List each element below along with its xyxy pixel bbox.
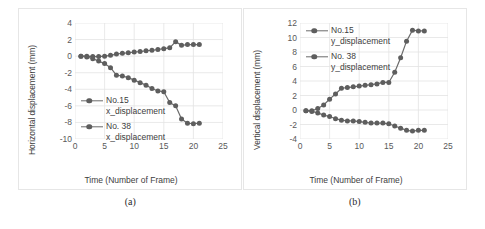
y-tick-label: -4	[64, 84, 72, 94]
data-point-marker	[167, 100, 172, 105]
y-tick-label: -8	[64, 117, 72, 127]
legend-a: No.15 x_displacement No. 38 x_displaceme…	[81, 95, 165, 147]
x-tick-label: 10	[354, 141, 363, 151]
y-tick-label: 8	[292, 47, 297, 57]
data-point-marker	[197, 121, 202, 126]
legend-label: No.15	[106, 95, 129, 106]
data-point-marker	[333, 92, 338, 97]
data-point-marker	[191, 121, 196, 126]
data-point-marker	[369, 82, 374, 87]
legend-label: No. 38	[106, 121, 131, 132]
data-point-marker	[197, 42, 202, 47]
data-point-marker	[144, 83, 149, 88]
data-point-marker	[345, 118, 350, 123]
x-tick-label: 20	[189, 141, 198, 151]
legend-entry: No. 38 x_displacement	[81, 121, 165, 144]
legend-label: No.15	[331, 25, 354, 36]
data-point-marker	[398, 55, 403, 60]
data-point-marker	[398, 126, 403, 131]
data-point-marker	[369, 121, 374, 126]
data-point-marker	[90, 56, 95, 61]
legend-label-sub: x_displacement	[81, 132, 165, 143]
data-point-marker	[108, 53, 113, 58]
data-point-marker	[149, 48, 154, 53]
y-axis-title-a: Horizontal displacement (mm)	[25, 9, 39, 191]
data-point-marker	[132, 78, 137, 83]
data-point-marker	[138, 80, 143, 85]
data-point-marker	[108, 65, 113, 70]
data-point-marker	[102, 61, 107, 66]
chart-panel-a: Horizontal displacement (mm) 420-2-4-6-8…	[18, 8, 242, 190]
figure-container: Horizontal displacement (mm) 420-2-4-6-8…	[0, 0, 485, 229]
data-point-marker	[114, 52, 119, 57]
data-point-marker	[126, 50, 131, 55]
data-point-marker	[363, 83, 368, 88]
data-point-marker	[138, 49, 143, 54]
data-point-marker	[321, 113, 326, 118]
data-point-marker	[404, 128, 409, 133]
data-point-marker	[339, 118, 344, 123]
data-point-marker	[422, 128, 427, 133]
data-point-marker	[185, 42, 190, 47]
data-point-marker	[191, 42, 196, 47]
data-point-marker	[120, 74, 125, 79]
data-point-marker	[173, 103, 178, 108]
data-point-marker	[380, 121, 385, 126]
y-tick-label: -6	[64, 101, 72, 111]
y-tick-label: -2	[64, 68, 72, 78]
x-axis-ticks-b: 0510152025	[300, 141, 448, 153]
data-point-marker	[309, 109, 314, 114]
legend-marker-icon	[81, 97, 103, 105]
y-tick-label: 6	[292, 62, 297, 72]
legend-b: No.15 y_displacement No. 38 y_displaceme…	[306, 25, 390, 77]
y-axis-ticks-b: 121086420-2-4	[272, 23, 297, 139]
chart-panels: Horizontal displacement (mm) 420-2-4-6-8…	[18, 8, 467, 190]
legend-label-sub: x_displacement	[81, 106, 165, 117]
legend-entry: No.15 y_displacement	[306, 25, 390, 48]
data-point-marker	[173, 39, 178, 44]
data-point-marker	[333, 116, 338, 121]
y-tick-label: 2	[67, 35, 72, 45]
data-point-marker	[161, 46, 166, 51]
caption-a: (a)	[18, 196, 243, 220]
data-point-marker	[126, 75, 131, 80]
data-point-marker	[351, 84, 356, 89]
data-point-marker	[179, 43, 184, 48]
legend-entry: No. 38 y_displacement	[306, 51, 390, 74]
legend-marker-icon	[306, 27, 328, 35]
data-point-marker	[144, 48, 149, 53]
y-tick-label: 4	[292, 76, 297, 86]
y-tick-label: 12	[288, 18, 297, 28]
data-point-marker	[155, 88, 160, 93]
data-point-marker	[149, 86, 154, 91]
chart-panel-b: Vertical displacement (mm) 121086420-2-4…	[243, 8, 467, 190]
data-point-marker	[96, 59, 101, 64]
data-point-marker	[410, 129, 415, 134]
data-point-marker	[327, 114, 332, 119]
data-point-marker	[416, 28, 421, 33]
data-point-marker	[392, 70, 397, 75]
data-point-marker	[380, 80, 385, 85]
caption-b: (b)	[243, 196, 468, 220]
data-point-marker	[161, 89, 166, 94]
data-point-marker	[315, 110, 320, 115]
x-tick-label: 20	[414, 141, 423, 151]
subfigure-captions: (a) (b)	[18, 196, 467, 220]
data-point-marker	[374, 81, 379, 86]
x-tick-label: 15	[384, 141, 393, 151]
data-point-marker	[84, 54, 89, 59]
data-point-marker	[179, 117, 184, 122]
legend-entry: No.15 x_displacement	[81, 95, 165, 118]
y-axis-ticks-a: 420-2-4-6-8-10	[47, 23, 72, 139]
data-point-marker	[410, 28, 415, 33]
data-point-marker	[404, 39, 409, 44]
data-point-marker	[132, 50, 137, 55]
x-tick-label: 0	[298, 141, 303, 151]
y-tick-label: 0	[292, 105, 297, 115]
data-point-marker	[321, 102, 326, 107]
data-point-marker	[339, 86, 344, 91]
x-axis-title-a: Time (Number of Frame)	[19, 175, 243, 185]
y-tick-label: -4	[289, 134, 297, 144]
data-point-marker	[114, 73, 119, 78]
data-point-marker	[185, 121, 190, 126]
